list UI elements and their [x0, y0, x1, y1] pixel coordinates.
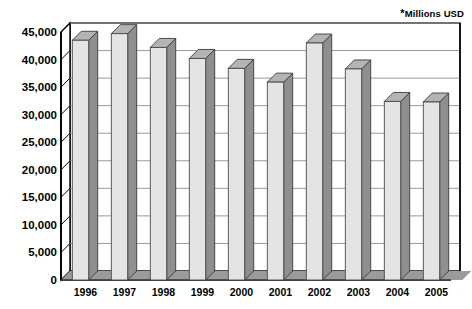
- x-axis-tick-1996: 1996: [74, 286, 97, 298]
- x-axis: 1996199719981999200020012002200320042005: [0, 286, 472, 304]
- y-axis-tick-10000: 10,000: [1, 219, 57, 231]
- x-axis-tick-1998: 1998: [152, 286, 175, 298]
- x-axis-tick-2005: 2005: [425, 286, 448, 298]
- bar-1998: [150, 38, 175, 280]
- x-axis-tick-2001: 2001: [269, 286, 292, 298]
- x-axis-tick-1997: 1997: [113, 286, 136, 298]
- y-axis-tick-30000: 30,000: [1, 109, 57, 121]
- bar-2003: [345, 60, 370, 280]
- bar-1996: [72, 31, 97, 280]
- bar-2001: [267, 73, 292, 280]
- bar-chart: *Millions USD 05,00010,00015,00020,00025…: [0, 0, 472, 309]
- bar-1999: [189, 49, 214, 280]
- y-axis-tick-15000: 15,000: [1, 191, 57, 203]
- y-axis-tick-0: 0: [1, 274, 57, 286]
- y-axis-tick-35000: 35,000: [1, 81, 57, 93]
- y-axis-tick-25000: 25,000: [1, 136, 57, 148]
- y-axis-tick-40000: 40,000: [1, 54, 57, 66]
- x-axis-tick-2000: 2000: [230, 286, 253, 298]
- x-axis-tick-2004: 2004: [386, 286, 409, 298]
- x-axis-tick-2002: 2002: [308, 286, 331, 298]
- bar-2005: [423, 93, 448, 280]
- bar-2002: [306, 34, 331, 280]
- bar-2000: [228, 59, 253, 280]
- bar-1997: [111, 25, 136, 280]
- x-axis-tick-2003: 2003: [347, 286, 370, 298]
- bar-2004: [384, 92, 409, 280]
- chart-bars: [0, 0, 472, 309]
- y-axis-tick-20000: 20,000: [1, 164, 57, 176]
- y-axis-tick-45000: 45,000: [1, 26, 57, 38]
- x-axis-tick-1999: 1999: [191, 286, 214, 298]
- y-axis-tick-5000: 5,000: [1, 246, 57, 258]
- y-axis: 05,00010,00015,00020,00025,00030,00035,0…: [0, 0, 57, 309]
